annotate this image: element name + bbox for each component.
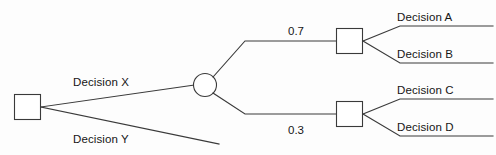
label-probability-lower: 0.3 (288, 124, 304, 136)
decision-node-ab (337, 29, 363, 54)
label-decision-b: Decision B (397, 48, 453, 60)
branch-upper-probability (213, 41, 336, 77)
label-decision-y: Decision Y (73, 133, 129, 145)
branch-decision-x (41, 85, 194, 107)
label-decision-a: Decision A (397, 11, 452, 23)
branch-decision-c (363, 99, 493, 114)
label-decision-x: Decision X (73, 76, 129, 88)
label-decision-c: Decision C (397, 84, 454, 96)
label-probability-upper: 0.7 (288, 25, 304, 37)
label-decision-d: Decision D (397, 121, 454, 133)
branch-decision-a (363, 26, 493, 41)
root-decision-node (15, 95, 41, 120)
decision-node-cd (337, 102, 363, 127)
decision-tree-diagram: Decision X Decision Y 0.7 0.3 Decision A… (0, 0, 496, 155)
branch-lower-probability (213, 93, 336, 114)
branch-decision-y (41, 107, 219, 144)
